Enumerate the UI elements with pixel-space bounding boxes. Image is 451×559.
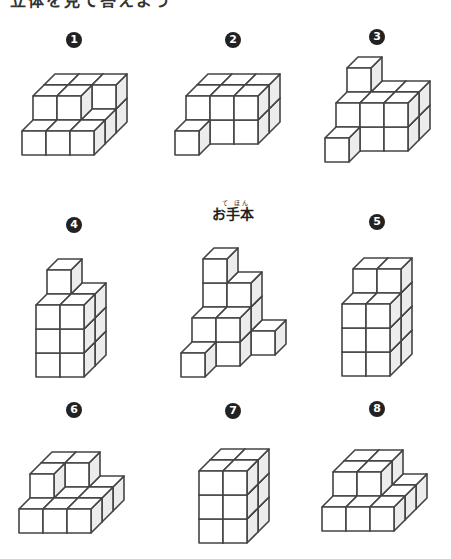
cube-front-face [325, 138, 349, 162]
cube [47, 259, 82, 294]
cube-front-face [370, 507, 394, 531]
cube-front-face [234, 96, 258, 120]
cube [366, 293, 401, 328]
cube-front-face [384, 103, 408, 127]
cube-front-face [223, 495, 247, 519]
cube-front-face [36, 305, 60, 329]
cube [347, 57, 382, 92]
cube [92, 74, 127, 109]
cube-front-face [360, 127, 384, 151]
cube-front-face [60, 353, 84, 377]
cube-front-face [333, 472, 357, 496]
cube [30, 463, 65, 498]
cube-front-face [223, 471, 247, 495]
cube-front-face [192, 318, 216, 342]
cube-front-face [92, 85, 116, 109]
sample-figure [181, 248, 286, 377]
cube-front-face [322, 507, 346, 531]
cube-front-face [346, 507, 370, 531]
cube-front-face [70, 131, 94, 155]
cube-front-face [36, 329, 60, 353]
figure-2 [175, 74, 280, 155]
cube [357, 461, 392, 496]
cube [65, 452, 100, 487]
cube-front-face [216, 318, 240, 342]
cube-front-face [342, 304, 366, 328]
cube-front-face [60, 329, 84, 353]
cube-front-face [366, 304, 390, 328]
cube [60, 294, 95, 329]
cube-front-face [347, 68, 371, 92]
cube [216, 307, 251, 342]
cube-front-face [60, 305, 84, 329]
cube-front-face [46, 131, 70, 155]
cube-front-face [216, 342, 240, 366]
cube-figures-canvas [0, 0, 451, 559]
figure-5 [342, 258, 412, 376]
cube [370, 496, 405, 531]
figure-4 [36, 259, 106, 377]
cube-front-face [336, 103, 360, 127]
cube-front-face [360, 103, 384, 127]
cube [57, 85, 92, 120]
cube [203, 248, 238, 283]
cube [223, 460, 258, 495]
cube-front-face [175, 131, 199, 155]
cube-front-face [210, 120, 234, 144]
cube-front-face [47, 270, 71, 294]
cube [181, 342, 216, 377]
cube-front-face [342, 328, 366, 352]
cube-front-face [33, 96, 57, 120]
figure-6 [19, 452, 124, 533]
cube [175, 120, 210, 155]
cube-front-face [22, 131, 46, 155]
cube [325, 127, 360, 162]
cube-front-face [199, 495, 223, 519]
cube-front-face [199, 519, 223, 543]
cube-front-face [251, 331, 275, 355]
cube-front-face [377, 269, 401, 293]
cube-front-face [203, 259, 227, 283]
cube-front-face [186, 96, 210, 120]
cube-front-face [36, 353, 60, 377]
cube-front-face [234, 120, 258, 144]
cube-front-face [342, 352, 366, 376]
cube [70, 120, 105, 155]
figure-1 [22, 74, 127, 155]
cube-front-face [223, 519, 247, 543]
cube-front-face [65, 463, 89, 487]
cube-front-face [67, 509, 91, 533]
figure-8 [322, 450, 427, 531]
cube-front-face [357, 472, 381, 496]
cube-front-face [57, 96, 81, 120]
cube-front-face [181, 353, 205, 377]
cube [377, 258, 412, 293]
cube-front-face [366, 352, 390, 376]
cube-front-face [353, 269, 377, 293]
cube-front-face [203, 283, 227, 307]
figure-3 [325, 57, 430, 162]
cube [234, 85, 269, 120]
cube [384, 92, 419, 127]
cube-front-face [199, 471, 223, 495]
cube-front-face [19, 509, 43, 533]
cube-front-face [366, 328, 390, 352]
figure-7 [199, 449, 269, 543]
cube-front-face [210, 96, 234, 120]
cube-front-face [43, 509, 67, 533]
cube-front-face [384, 127, 408, 151]
cube-front-face [227, 283, 251, 307]
cube [67, 498, 102, 533]
cube-front-face [30, 474, 54, 498]
